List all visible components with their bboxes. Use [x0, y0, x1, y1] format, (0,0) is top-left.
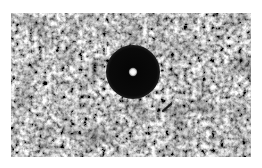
center-bright-spot — [129, 68, 137, 76]
micrograph — [11, 13, 251, 157]
micrograph-svg — [11, 13, 251, 157]
image-canvas — [0, 0, 262, 168]
